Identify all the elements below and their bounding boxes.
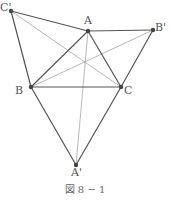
segment-b-aprime [31,87,76,165]
label-bprime: B' [155,22,166,33]
segment-cprime-a [11,11,88,31]
segment-a-b [31,31,88,87]
label-b: B [15,85,23,96]
label-aprime: A' [71,167,82,178]
segment-c-aprime [76,87,121,165]
segment-a-aprime [76,31,88,165]
label-c: C [124,85,132,96]
segment-bprime-c [121,30,153,87]
points [9,9,155,167]
point-a [86,29,90,33]
segment-c-a [88,31,121,87]
label-cprime: C' [0,2,11,13]
label-a: A [84,15,92,26]
geometry-figure [0,0,170,200]
figure-caption: 図 8 − 1 [0,185,170,195]
point-b [29,85,33,89]
point-c [119,85,123,89]
segment-a-bprime [88,30,153,31]
